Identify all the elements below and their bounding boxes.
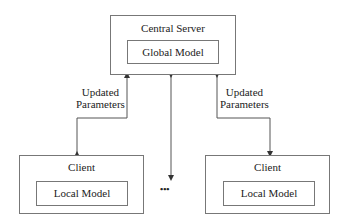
global-model-box: Global Model <box>127 40 219 64</box>
left-edge-label-line1: Updated <box>76 86 125 98</box>
left-edge-label-line2: Parameters <box>76 98 125 110</box>
local-model-label: Local Model <box>37 187 127 199</box>
right-edge-label-line2: Parameters <box>220 98 269 110</box>
client-box-left: Client Local Model <box>19 155 144 214</box>
central-server-box: Central Server Global Model <box>110 15 236 75</box>
client-box-right: Client Local Model <box>205 155 330 214</box>
local-model-label: Local Model <box>224 187 314 199</box>
global-model-label: Global Model <box>128 46 218 58</box>
client-title: Client <box>20 161 143 173</box>
local-model-box: Local Model <box>223 181 315 206</box>
local-model-box: Local Model <box>36 181 128 206</box>
client-title: Client <box>206 161 329 173</box>
right-edge-label-line1: Updated <box>220 86 269 98</box>
left-edge-label: Updated Parameters <box>76 86 125 110</box>
ellipsis: ••• <box>160 184 169 194</box>
central-server-title: Central Server <box>111 22 235 34</box>
right-edge-label: Updated Parameters <box>220 86 269 110</box>
